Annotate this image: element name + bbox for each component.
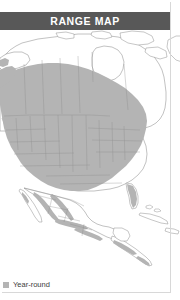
map-legend: Year-round: [3, 281, 50, 289]
range-map-card: RANGE MAP Year-round: [0, 0, 180, 300]
range-map-header: RANGE MAP: [0, 12, 170, 30]
north-america-map-svg: [0, 0, 180, 285]
page-title: RANGE MAP: [50, 16, 120, 27]
cuba-island: [139, 213, 168, 224]
hispaniola-island: [165, 228, 179, 234]
card-border-bottom: [2, 292, 171, 293]
card-border-right: [170, 2, 171, 293]
caribbean-islands: [146, 205, 161, 212]
legend-label-year-round: Year-round: [13, 281, 50, 289]
greenland-edge: [167, 36, 180, 62]
range-map-image: [0, 0, 180, 285]
legend-swatch-year-round: [3, 282, 9, 288]
